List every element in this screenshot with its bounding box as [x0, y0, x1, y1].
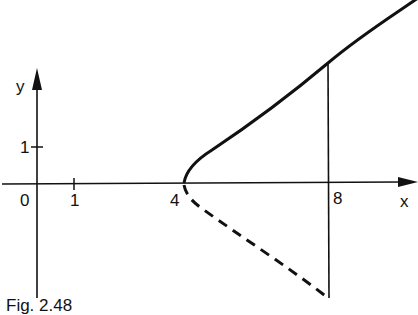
- y-axis-arrow-icon: [32, 68, 42, 90]
- x-tick-label-8: 8: [333, 190, 342, 207]
- y-tick-label-1: 1: [20, 139, 29, 156]
- origin-label: 0: [20, 192, 29, 209]
- y-axis-label: y: [16, 78, 25, 95]
- x-axis-label: x: [400, 193, 409, 210]
- vertical-line-x8: [328, 62, 329, 298]
- figure-caption: Fig. 2.48: [6, 297, 72, 314]
- x-tick-label-4: 4: [170, 192, 179, 209]
- x-tick-label-1: 1: [70, 192, 79, 209]
- upper-branch-curve: [184, 0, 418, 183]
- x-axis-arrow-icon: [398, 177, 418, 187]
- lower-branch-curve: [184, 185, 328, 298]
- x-axis: [2, 182, 400, 184]
